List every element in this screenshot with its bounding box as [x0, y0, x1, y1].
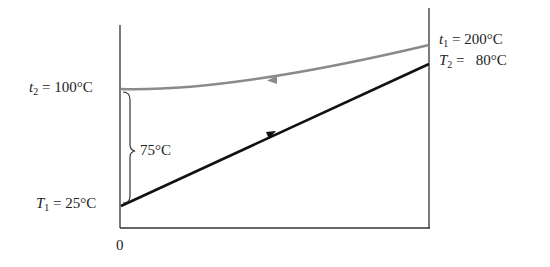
brace-icon: [123, 92, 135, 203]
label-delta: 75°C: [140, 143, 171, 158]
origin-label: 0: [116, 238, 124, 253]
label-t1: t1 = 200°C: [439, 32, 503, 49]
label-T1: T1 = 25°C: [36, 196, 96, 213]
label-t2: t2 = 100°C: [29, 80, 93, 97]
label-T2: T2 = 80°C: [439, 53, 507, 70]
cold-fluid-line: [121, 64, 429, 206]
